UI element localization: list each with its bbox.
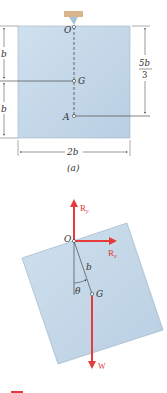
dim-label-2b: 2b: [66, 147, 79, 157]
point-g-b: [90, 292, 93, 295]
label-o: O: [64, 25, 72, 35]
diagram-canvas: O G A b b 5b 3 2b (a): [0, 0, 167, 393]
point-o: [72, 25, 75, 28]
dim-label-b-upper: b: [1, 49, 7, 59]
point-a: [72, 114, 75, 117]
point-o-b: [72, 239, 75, 242]
label-g: G: [78, 76, 85, 86]
point-g: [72, 79, 75, 82]
dim-label-3: 3: [142, 70, 147, 80]
label-b-length: b: [86, 262, 92, 272]
label-g-b: G: [96, 289, 103, 299]
figure-b: b θ Ry Rx W O G: [11, 203, 163, 393]
label-w: W: [98, 362, 106, 371]
caption-a: (a): [67, 163, 80, 173]
label-a: A: [62, 112, 70, 122]
label-o-b: O: [64, 234, 72, 244]
label-ry: Ry: [80, 203, 89, 214]
ceiling-support: [64, 11, 83, 17]
dim-label-5b: 5b: [139, 58, 150, 68]
dim-label-b-lower: b: [1, 104, 7, 114]
figure-a: O G A b b 5b 3 2b (a): [0, 11, 153, 173]
pivot-bracket-icon: [69, 17, 78, 25]
label-theta: θ: [75, 286, 81, 296]
